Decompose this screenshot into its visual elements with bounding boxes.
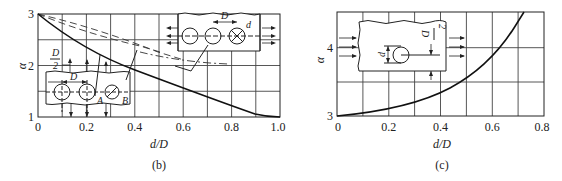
chart-c-ylabel: α [313,56,327,63]
svg-text:0.4: 0.4 [127,120,142,134]
svg-text:0: 0 [335,120,341,134]
chart-c-inset-D2-den: 2 [437,24,448,29]
svg-text:0.6: 0.6 [485,120,500,134]
chart-c-yticks: 3 4 [327,41,333,123]
svg-text:0.2: 0.2 [79,120,94,134]
chart-b-inset-top-D-label: D [220,10,229,21]
chart-c-caption: (c) [435,158,448,172]
svg-text:0.2: 0.2 [381,120,396,134]
chart-c-xticks: 0 0.2 0.4 0.6 0.8 [335,120,550,134]
chart-b-inset-top: D d [166,10,276,71]
chart-c-xlabel: d/D [433,137,451,151]
svg-text:1: 1 [28,110,34,124]
chart-b-caption: (b) [152,158,166,172]
chart-b-xlabel: d/D [150,137,168,151]
chart-b-inset-D2-den: 2 [53,60,58,71]
chart-b-inset-D2-num: D [51,47,60,58]
svg-text:3: 3 [28,7,34,21]
svg-text:1.0: 1.0 [271,120,286,134]
chart-b-inset-A-label: A [96,95,104,106]
svg-text:0.8: 0.8 [535,120,550,134]
figure: D d [0,0,562,181]
chart-b-inset-B-label: B [122,95,128,106]
chart-b-inset-bottom-D-label: D [69,71,78,82]
chart-c-inset: d D 2 [339,21,465,81]
svg-text:0.4: 0.4 [433,120,448,134]
chart-c-inset-D2-num: D [420,29,431,38]
svg-text:0.6: 0.6 [176,120,191,134]
chart-b-ylabel: α [15,62,29,69]
chart-b: D d [15,7,286,172]
svg-text:3: 3 [327,109,333,123]
chart-c: d D 2 0 0.2 0.4 0.6 [313,12,550,172]
chart-b-inset-bottom: D D 2 A B [46,47,137,117]
svg-text:0: 0 [35,120,41,134]
chart-b-xticks: 0 0.2 0.4 0.6 0.8 1.0 [35,120,286,134]
chart-b-curve-dashdot [140,52,228,64]
svg-text:4: 4 [327,41,333,55]
svg-text:0.8: 0.8 [224,120,239,134]
